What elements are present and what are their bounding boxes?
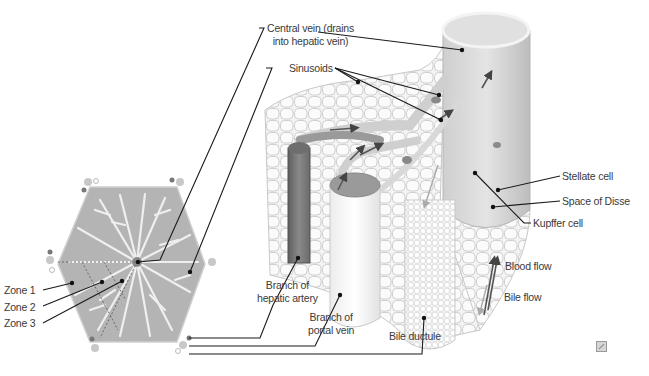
label-hepatic-artery-line2: hepatic artery xyxy=(257,292,318,305)
label-kupffer-cell: Kupffer cell xyxy=(533,217,583,230)
label-stellate-cell: Stellate cell xyxy=(562,170,613,183)
label-central-vein: Central vein (drains into hepatic vein) xyxy=(267,22,354,48)
label-hepatic-artery-line1: Branch of xyxy=(257,279,318,292)
label-portal-vein-line2: portal vein xyxy=(308,324,354,337)
label-portal-vein: Branch of portal vein xyxy=(308,311,354,337)
label-hepatic-artery: Branch of hepatic artery xyxy=(257,279,318,305)
label-bile-ductule: Bile ductule xyxy=(389,330,441,343)
label-space-of-disse: Space of Disse xyxy=(562,195,630,208)
label-zone-3: Zone 3 xyxy=(4,317,36,330)
label-portal-vein-line1: Branch of xyxy=(308,311,354,324)
label-blood-flow: Blood flow xyxy=(505,260,551,273)
label-sinusoids: Sinusoids xyxy=(289,62,333,75)
expand-image-icon[interactable] xyxy=(596,341,607,352)
label-central-vein-line2: into hepatic vein) xyxy=(267,35,354,48)
label-zone-1: Zone 1 xyxy=(4,284,36,297)
label-zone-2: Zone 2 xyxy=(4,301,36,314)
label-central-vein-line1: Central vein (drains xyxy=(267,22,354,35)
lobule-hexagon xyxy=(46,178,216,354)
label-bile-flow: Bile flow xyxy=(504,291,541,304)
